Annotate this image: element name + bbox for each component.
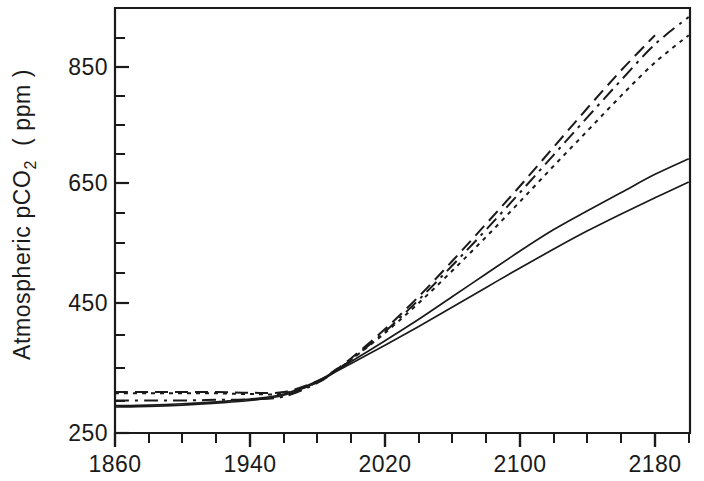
y-tick-label-450: 450 bbox=[68, 290, 108, 316]
y-axis-ticks bbox=[115, 38, 129, 433]
x-tick-label-2100: 2100 bbox=[493, 451, 546, 477]
x-tick-label-2180: 2180 bbox=[628, 451, 681, 477]
y-axis-label: Atmospheric pCO2 ( ppm ) bbox=[9, 69, 39, 360]
y-axis-label-subscript: 2 bbox=[22, 160, 39, 170]
x-axis-tick-labels: 1860 1940 2020 2100 2180 bbox=[88, 451, 681, 477]
x-tick-label-1860: 1860 bbox=[88, 451, 141, 477]
series-scenario-dash-dot bbox=[115, 17, 689, 401]
series-scenario-dotted bbox=[115, 35, 689, 394]
y-tick-label-250: 250 bbox=[68, 420, 108, 446]
y-tick-label-650: 650 bbox=[68, 170, 108, 196]
y-axis-tick-labels: 850 650 450 250 bbox=[68, 54, 108, 446]
x-tick-label-2020: 2020 bbox=[358, 451, 411, 477]
chart-figure: Atmospheric pCO2 ( ppm ) 850 bbox=[0, 0, 704, 481]
series-scenario-solid-upper bbox=[115, 159, 689, 406]
series-scenario-solid-lower bbox=[115, 182, 689, 407]
y-axis-label-main: Atmospheric pCO bbox=[9, 169, 35, 360]
chart-canvas: Atmospheric pCO2 ( ppm ) 850 bbox=[0, 0, 704, 481]
y-tick-label-850: 850 bbox=[68, 54, 108, 80]
svg-text:Atmospheric pCO2 ( ppm ): Atmospheric pCO2 ( ppm ) bbox=[9, 69, 39, 360]
x-axis-ticks bbox=[115, 433, 689, 447]
plot-frame bbox=[115, 8, 690, 433]
data-series-group bbox=[115, 17, 689, 407]
x-tick-label-1940: 1940 bbox=[223, 451, 276, 477]
series-scenario-dashed-long bbox=[115, 35, 655, 393]
y-axis-label-unit: ( ppm ) bbox=[9, 69, 35, 146]
